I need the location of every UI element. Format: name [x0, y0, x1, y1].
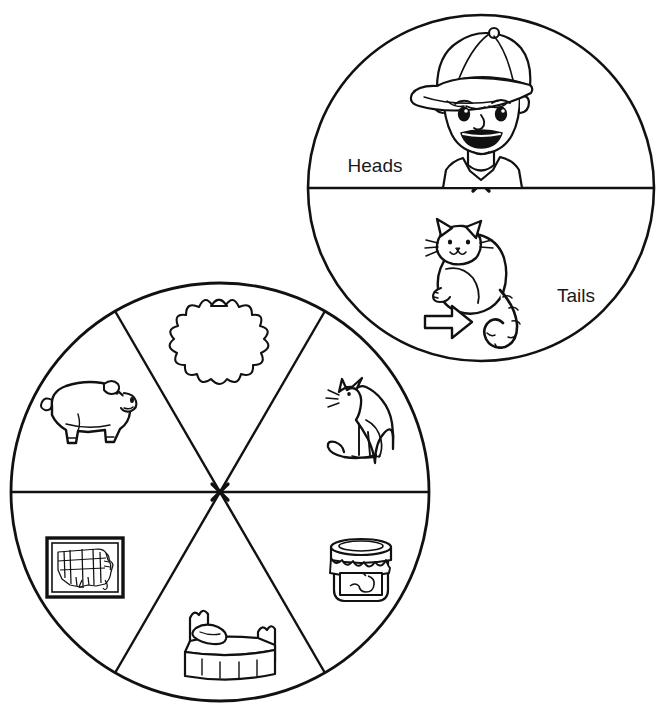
worksheet-svg: Heads: [0, 0, 671, 727]
jam-jar-icon: [330, 539, 391, 601]
us-map-icon: [47, 538, 123, 597]
page-background: [0, 0, 671, 727]
coin-tails-label: Tails: [557, 285, 595, 306]
coin-heads-label: Heads: [348, 155, 403, 176]
worksheet-canvas: Heads: [0, 0, 671, 727]
